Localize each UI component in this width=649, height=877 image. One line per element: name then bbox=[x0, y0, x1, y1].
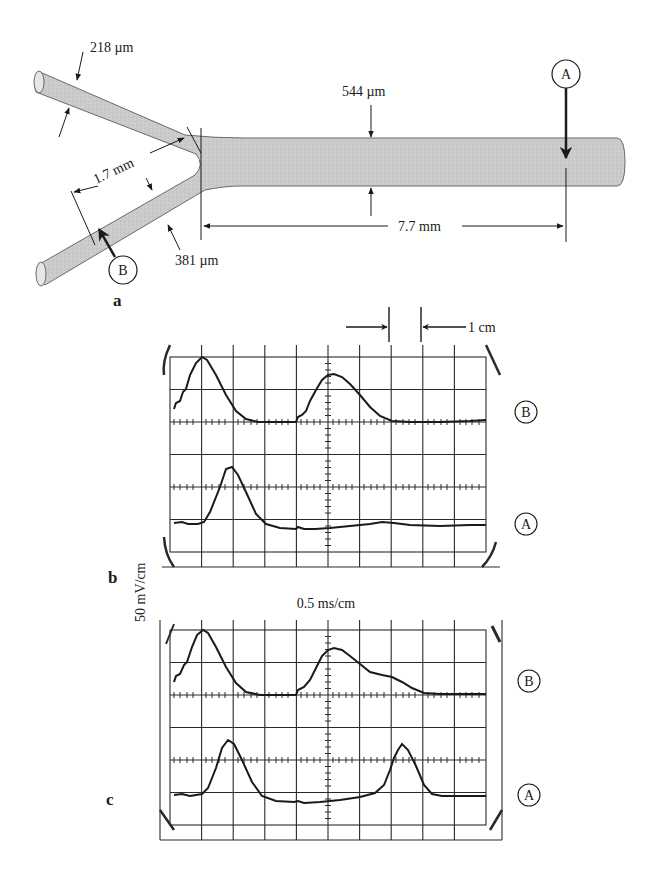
grid-c bbox=[160, 620, 502, 840]
label-544um: 544 µm bbox=[342, 84, 386, 99]
label-218um: 218 µm bbox=[90, 40, 134, 55]
trace-label-b-panel-c: B bbox=[524, 674, 533, 689]
trace-a-lower bbox=[174, 740, 486, 803]
label-7-7mm: 7.7 mm bbox=[398, 219, 441, 234]
scope-panel-b bbox=[162, 345, 500, 567]
trace-label-b-panel-b: B bbox=[521, 405, 530, 420]
scale-1cm: 1 cm bbox=[346, 307, 496, 342]
site-b-label: B bbox=[118, 263, 127, 278]
panel-c-label: c bbox=[106, 790, 114, 809]
trace-label-a-panel-c: A bbox=[524, 788, 535, 803]
dim-arrow-381-bottom bbox=[168, 225, 180, 250]
panel-a-label: a bbox=[113, 291, 122, 310]
dim-arrow-381-top bbox=[146, 178, 152, 190]
grid-b bbox=[162, 345, 500, 567]
label-1-7mm: 1.7 mm bbox=[91, 155, 136, 187]
horizontal-scale-label: 0.5 ms/cm bbox=[297, 596, 355, 611]
lower-branch-end bbox=[36, 262, 46, 286]
axon-shape bbox=[35, 72, 625, 285]
dim-arrow-218-top bbox=[77, 52, 83, 80]
dim-arrow-218-bottom bbox=[59, 108, 69, 137]
axon-diagram: 218 µm 1.7 mm 381 µm 544 µm 7.7 mm A B a bbox=[34, 40, 625, 310]
label-1cm: 1 cm bbox=[468, 320, 496, 335]
trace-label-a-panel-b: A bbox=[521, 517, 532, 532]
scope-panel-c bbox=[160, 620, 502, 840]
vertical-scale-label: 50 mV/cm bbox=[133, 562, 148, 622]
upper-branch-end bbox=[34, 71, 44, 93]
dim-arrow-1-7-left bbox=[74, 186, 98, 192]
panel-b-label: b bbox=[108, 568, 117, 587]
dim-tick-1-7-left bbox=[71, 191, 95, 245]
label-381um: 381 µm bbox=[175, 253, 219, 268]
figure-canvas: 218 µm 1.7 mm 381 µm 544 µm 7.7 mm A B a bbox=[0, 0, 649, 877]
site-a-label: A bbox=[561, 67, 572, 82]
